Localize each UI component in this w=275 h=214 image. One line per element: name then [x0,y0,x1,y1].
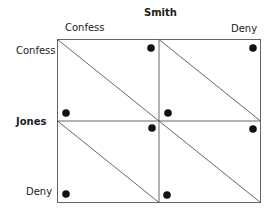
payoff-dot-jones [163,191,171,199]
payoff-matrix [0,0,275,214]
payoff-dot-smith [249,125,257,133]
payoff-dot-jones [164,109,172,117]
payoff-dot-smith [147,44,155,52]
payoff-dot-jones [62,109,70,117]
cell-diagonal [159,40,261,122]
payoff-dot-smith [148,124,156,132]
cell-diagonal [58,40,160,122]
payoff-dot-smith [249,44,257,52]
payoff-dot-jones [62,190,70,198]
cell-diagonal [58,121,160,203]
cell-diagonal [159,121,261,203]
